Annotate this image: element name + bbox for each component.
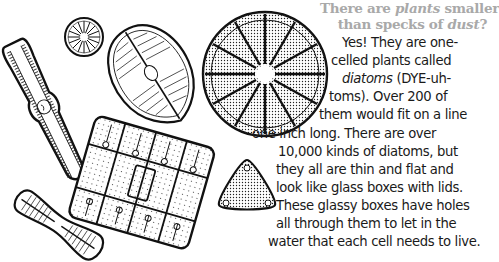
heading-line-1: There are plants smaller <box>320 0 499 16</box>
body-line: toms). Over 200 of <box>329 88 447 106</box>
heading-line-2: than specks of dust? <box>338 16 487 32</box>
small-round-diatom <box>65 18 103 56</box>
heading-emphasis: dust <box>447 16 479 32</box>
body-line: celled plants called <box>331 52 451 70</box>
heading-text: smaller <box>440 0 499 16</box>
heading-text: There are <box>320 0 395 16</box>
heading-text: ? <box>479 16 487 32</box>
body-line: These glassy boxes have holes <box>276 197 470 215</box>
elongated-diatom <box>0 37 92 185</box>
triangular-diatom <box>219 160 275 210</box>
body-line: them would fit on a line <box>319 106 467 124</box>
diatoms-term: diatoms <box>342 71 393 86</box>
body-line: all through them to let in the <box>276 215 456 233</box>
body-line: one inch long. There are over <box>252 125 436 143</box>
heading-emphasis: plants <box>395 0 440 16</box>
body-line: look like glass boxes with lids. <box>276 179 463 197</box>
body-line: Yes! They are one- <box>342 34 458 52</box>
heading-text: than specks of <box>338 16 448 32</box>
body-line: diatoms (DYE-uh- <box>342 70 451 88</box>
body-line: water that each cell needs to live. <box>268 233 480 251</box>
large-round-diatom <box>203 12 327 136</box>
body-line: 10,000 kinds of diatoms, but <box>278 143 458 161</box>
body-line-text: (DYE-uh- <box>393 71 451 86</box>
body-line: they all are thin and flat and <box>276 161 454 179</box>
